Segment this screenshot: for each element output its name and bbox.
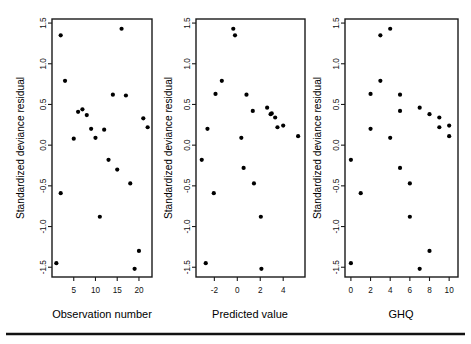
x-axis-title: GHQ (388, 308, 414, 320)
data-point (359, 191, 363, 195)
data-point (244, 93, 248, 97)
data-point (128, 181, 132, 185)
data-point (447, 124, 451, 128)
data-point (418, 106, 422, 110)
data-point (85, 113, 89, 117)
data-point (259, 267, 263, 271)
x-tick-label: 20 (134, 286, 144, 295)
x-tick-label: 10 (91, 286, 101, 295)
data-point (273, 115, 277, 119)
data-point (212, 191, 216, 195)
data-point (427, 249, 431, 253)
y-tick-label: 0.5 (39, 98, 48, 110)
y-tick-label: -1.0 (332, 219, 341, 234)
data-point (447, 134, 451, 138)
y-tick-label: 0.0 (183, 139, 192, 151)
y-tick-label: 0.0 (332, 139, 341, 151)
data-point (281, 124, 285, 128)
x-axis-title: Predicted value (212, 308, 288, 320)
data-point (398, 109, 402, 113)
y-axis-title: Standardized deviance residual (312, 77, 323, 219)
data-point (418, 267, 422, 271)
data-point (368, 127, 372, 131)
data-point (213, 92, 217, 96)
data-point (220, 79, 224, 83)
y-axis-title: Standardized deviance residual (163, 77, 174, 219)
y-tick-label: 1.5 (183, 17, 192, 29)
x-tick-label: 5 (71, 286, 76, 295)
y-tick-label: 1.5 (39, 17, 48, 29)
data-point (59, 191, 63, 195)
x-tick-label: 2 (258, 286, 263, 295)
x-tick-label: 2 (368, 286, 373, 295)
data-point (141, 116, 145, 120)
data-point (378, 33, 382, 37)
x-axis-title: Observation number (52, 308, 152, 320)
data-point (427, 112, 431, 116)
data-point (368, 92, 372, 96)
data-point (59, 33, 63, 37)
data-point (388, 136, 392, 140)
data-point (93, 136, 97, 140)
x-tick-label: 8 (427, 286, 432, 295)
data-point (63, 79, 67, 83)
data-point (239, 136, 243, 140)
data-point (137, 249, 141, 253)
y-tick-label: -1.5 (332, 260, 341, 275)
y-tick-label: 1.0 (332, 58, 341, 70)
x-tick-label: 10 (445, 286, 455, 295)
y-tick-label: -1.5 (183, 260, 192, 275)
data-point (204, 261, 208, 265)
data-point (106, 158, 110, 162)
data-point (205, 127, 209, 131)
data-point (378, 79, 382, 83)
data-point (408, 215, 412, 219)
y-tick-label: 1.0 (39, 58, 48, 70)
y-tick-label: -0.5 (39, 178, 48, 193)
x-tick-label: 0 (235, 286, 240, 295)
data-point (146, 125, 150, 129)
data-point (259, 215, 263, 219)
x-tick-label: 15 (113, 286, 123, 295)
data-point (252, 181, 256, 185)
data-point (233, 33, 237, 37)
data-point (242, 166, 246, 170)
data-point (437, 115, 441, 119)
data-point (388, 27, 392, 31)
data-point (296, 134, 300, 138)
data-point (437, 125, 441, 129)
data-point (89, 127, 93, 131)
x-tick-label: -2 (211, 286, 219, 295)
y-tick-label: -1.0 (183, 219, 192, 234)
x-tick-label: 4 (281, 286, 286, 295)
y-tick-label: 0.5 (183, 98, 192, 110)
data-point (76, 110, 80, 114)
data-point (270, 111, 274, 115)
data-point (72, 137, 76, 141)
data-point (111, 93, 115, 97)
data-point (80, 107, 84, 111)
data-point (231, 27, 235, 31)
data-point (98, 215, 102, 219)
y-tick-label: -0.5 (183, 178, 192, 193)
data-point (251, 109, 255, 113)
data-point (200, 158, 204, 162)
y-tick-label: 1.0 (183, 58, 192, 70)
y-axis-title: Standardized deviance residual (15, 77, 26, 219)
y-tick-label: 0.5 (332, 98, 341, 110)
data-point (265, 106, 269, 110)
x-tick-label: 6 (408, 286, 413, 295)
data-point (349, 261, 353, 265)
data-point (124, 93, 128, 97)
data-point (275, 125, 279, 129)
y-tick-label: -0.5 (332, 178, 341, 193)
y-tick-label: 0.0 (39, 139, 48, 151)
y-tick-label: -1.5 (39, 260, 48, 275)
data-point (398, 93, 402, 97)
data-point (398, 166, 402, 170)
y-tick-label: 1.5 (332, 17, 341, 29)
data-point (408, 181, 412, 185)
x-tick-label: 0 (349, 286, 354, 295)
y-tick-label: -1.0 (39, 219, 48, 234)
data-point (54, 261, 58, 265)
